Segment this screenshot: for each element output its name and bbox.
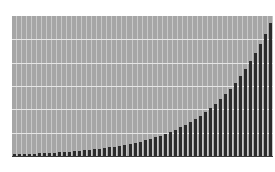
bar: [249, 61, 252, 156]
bar: [118, 146, 121, 156]
bar: [239, 76, 242, 156]
bar: [139, 142, 142, 157]
bar: [199, 116, 202, 156]
bar: [103, 148, 106, 156]
bar: [154, 137, 157, 156]
bar: [164, 134, 167, 156]
bar: [204, 112, 207, 156]
bar: [144, 140, 147, 156]
bar: [219, 99, 222, 156]
bar: [244, 69, 247, 156]
bar: [269, 23, 272, 156]
bar: [123, 145, 126, 156]
bar: [159, 136, 162, 156]
bar: [259, 44, 262, 157]
bar: [98, 149, 101, 156]
bar: [179, 127, 182, 156]
bar: [189, 122, 192, 156]
bar: [229, 89, 232, 157]
bar: [224, 94, 227, 156]
bar: [234, 83, 237, 157]
bar: [113, 147, 116, 157]
chart-plot-area: [12, 16, 273, 156]
bar: [108, 147, 111, 156]
bar: [93, 149, 96, 156]
bar: [134, 143, 137, 156]
horizontal-gridline: [12, 63, 273, 64]
bar: [129, 144, 132, 156]
bar: [264, 34, 267, 157]
bar: [169, 132, 172, 156]
x-axis-baseline: [12, 156, 273, 157]
bar: [184, 125, 187, 156]
bar: [254, 53, 257, 156]
bar: [174, 130, 177, 156]
bar: [194, 119, 197, 156]
horizontal-gridline: [12, 39, 273, 40]
bar: [149, 139, 152, 156]
bar: [209, 108, 212, 156]
bar: [214, 104, 217, 156]
